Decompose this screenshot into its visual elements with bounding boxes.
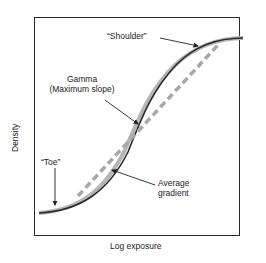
x-axis-label: Log exposure [110,241,162,251]
y-axis-label: Density [10,124,20,152]
gamma-label-line1: Gamma [42,74,122,84]
average-gradient-arrow [112,170,155,185]
gamma-arrow [105,100,138,124]
average-gradient-label-line1: Average [158,178,190,188]
average-gradient-line [78,45,218,196]
gamma-label-line2: (Maximum slope) [42,84,122,94]
toe-label: “Toe” [41,157,60,167]
average-gradient-label-line2: gradient [158,188,189,198]
shoulder-label: “Shoulder” [107,31,147,41]
shoulder-arrow [160,38,198,46]
